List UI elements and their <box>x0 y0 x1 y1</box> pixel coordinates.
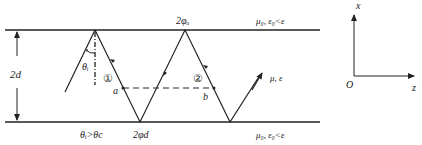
ray2-label: ② <box>193 72 203 84</box>
point-a-label: a <box>113 85 118 96</box>
phase-bottom-label: 2φd <box>133 129 150 140</box>
condition-label: θᵢ>θc <box>80 129 103 140</box>
ray-direction-arrow-2 <box>163 71 167 76</box>
zigzag-ray <box>95 30 260 122</box>
incidence-angle-label: θᵢ <box>82 61 89 72</box>
origin-label: O <box>346 79 353 90</box>
point-b <box>213 87 216 90</box>
waveguide-diagram: 2d θᵢ ① ② a b 2φᵤ 2φd θᵢ>θc μ₀, ε₀<ε μ, … <box>0 0 422 145</box>
core-medium-label: μ, ε <box>269 73 283 83</box>
point-a <box>122 87 125 90</box>
top-medium-label: μ₀, ε₀<ε <box>255 16 285 26</box>
exit-ray-arrow <box>252 73 262 90</box>
ray1-label: ① <box>103 72 113 84</box>
thickness-label: 2d <box>10 68 22 80</box>
bottom-medium-label: μ₀, ε₀<ε <box>255 130 285 140</box>
x-axis-label: x <box>355 0 361 11</box>
point-b-label: b <box>203 91 208 102</box>
incident-ray <box>65 30 95 92</box>
z-axis-label: z <box>411 82 416 93</box>
phase-top-label: 2φᵤ <box>176 15 190 26</box>
